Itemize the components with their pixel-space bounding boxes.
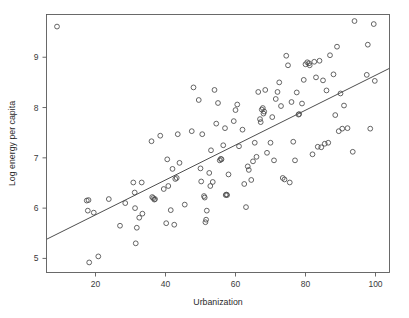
data-point bbox=[254, 154, 259, 159]
data-point bbox=[133, 206, 138, 211]
data-point bbox=[231, 119, 236, 124]
data-point bbox=[191, 85, 196, 90]
data-point bbox=[199, 179, 204, 184]
data-point bbox=[118, 223, 123, 228]
data-point bbox=[204, 208, 209, 213]
plot-canvas: 20406080100 56789 Urbanization Log energ… bbox=[0, 0, 409, 318]
data-point bbox=[352, 19, 357, 24]
data-point bbox=[233, 108, 238, 113]
data-point bbox=[333, 113, 338, 118]
data-point bbox=[289, 100, 294, 105]
data-point bbox=[314, 75, 319, 80]
data-point bbox=[172, 222, 177, 227]
data-point bbox=[235, 102, 240, 107]
data-point bbox=[196, 98, 201, 103]
y-axis-title: Log energy per capita bbox=[7, 101, 17, 186]
data-point bbox=[85, 208, 90, 213]
data-point bbox=[251, 159, 256, 164]
data-point bbox=[106, 197, 111, 202]
data-point bbox=[189, 129, 194, 134]
data-point bbox=[96, 254, 101, 259]
data-point bbox=[256, 90, 261, 95]
x-axis-ticks: 20406080100 bbox=[91, 273, 383, 289]
data-point bbox=[335, 44, 340, 49]
data-point bbox=[263, 88, 268, 93]
data-point bbox=[293, 158, 298, 163]
data-point bbox=[242, 182, 247, 187]
data-points-group bbox=[55, 19, 378, 265]
data-point bbox=[284, 53, 289, 58]
data-point bbox=[265, 150, 270, 155]
x-tick-label: 40 bbox=[161, 279, 171, 289]
data-point bbox=[331, 72, 336, 77]
x-tick-label: 20 bbox=[91, 279, 101, 289]
data-point bbox=[275, 90, 280, 95]
x-axis-title: Urbanization bbox=[193, 297, 242, 307]
data-point bbox=[294, 90, 299, 95]
data-point bbox=[131, 180, 136, 185]
data-point bbox=[165, 157, 170, 162]
y-tick-label: 9 bbox=[34, 52, 39, 62]
data-point bbox=[175, 132, 180, 137]
x-tick-label: 60 bbox=[231, 279, 241, 289]
data-point bbox=[371, 22, 376, 27]
data-point bbox=[170, 167, 175, 172]
data-point bbox=[286, 63, 291, 68]
data-point bbox=[277, 80, 282, 85]
data-point bbox=[200, 132, 205, 137]
y-tick-label: 8 bbox=[34, 103, 39, 113]
data-point bbox=[91, 210, 96, 215]
x-tick-label: 80 bbox=[301, 279, 311, 289]
data-point bbox=[149, 139, 154, 144]
data-point bbox=[273, 97, 278, 102]
data-point bbox=[252, 140, 257, 145]
data-point bbox=[287, 180, 292, 185]
data-point bbox=[365, 42, 370, 47]
data-point bbox=[123, 201, 128, 206]
data-point bbox=[312, 59, 317, 64]
data-point bbox=[258, 120, 263, 125]
x-tick-label: 100 bbox=[368, 279, 382, 289]
data-point bbox=[174, 176, 179, 181]
data-point bbox=[368, 126, 373, 131]
y-tick-label: 6 bbox=[34, 203, 39, 213]
data-point bbox=[221, 143, 226, 148]
data-point bbox=[168, 208, 173, 213]
data-point bbox=[342, 103, 347, 108]
data-point bbox=[268, 140, 273, 145]
data-point bbox=[321, 78, 326, 83]
data-point bbox=[301, 77, 306, 82]
data-point bbox=[177, 160, 182, 165]
data-point bbox=[317, 58, 322, 63]
data-point bbox=[214, 121, 219, 126]
data-point bbox=[237, 144, 242, 149]
data-point bbox=[270, 115, 275, 120]
data-point bbox=[272, 158, 277, 163]
data-point bbox=[134, 225, 139, 230]
data-point bbox=[209, 148, 214, 153]
scatter-plot-figure: 20406080100 56789 Urbanization Log energ… bbox=[0, 0, 409, 318]
data-point bbox=[158, 133, 163, 138]
data-point bbox=[164, 221, 169, 226]
data-point bbox=[324, 88, 329, 93]
data-point bbox=[372, 78, 377, 83]
data-point bbox=[310, 152, 315, 157]
data-point bbox=[132, 190, 137, 195]
data-point bbox=[87, 260, 92, 265]
data-point bbox=[198, 166, 203, 171]
data-point bbox=[182, 202, 187, 207]
data-point bbox=[291, 139, 296, 144]
plot-frame bbox=[47, 15, 390, 273]
data-point bbox=[345, 126, 350, 131]
y-axis-ticks: 56789 bbox=[34, 52, 47, 263]
data-point bbox=[279, 104, 284, 109]
data-point bbox=[133, 241, 138, 246]
data-point bbox=[139, 180, 144, 185]
data-point bbox=[55, 24, 60, 29]
y-tick-label: 5 bbox=[34, 253, 39, 263]
data-point bbox=[240, 127, 245, 132]
data-point bbox=[166, 184, 171, 189]
data-point bbox=[207, 171, 212, 176]
data-point bbox=[140, 211, 145, 216]
data-point bbox=[226, 172, 231, 177]
